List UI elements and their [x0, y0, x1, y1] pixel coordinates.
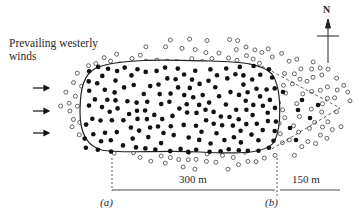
point-label-b: (b)	[265, 196, 278, 209]
wind-label-line1: Prevailing westerly	[9, 37, 98, 50]
arrow-right-icon	[33, 86, 49, 91]
wind-arrows	[33, 86, 49, 136]
north-arrow-icon	[317, 19, 339, 63]
wind-label-line2: winds	[9, 50, 98, 63]
arrow-right-icon	[33, 109, 49, 114]
wind-label: Prevailing westerly winds	[9, 37, 98, 63]
scale-label-150m: 150 m	[292, 173, 320, 186]
point-label-a: (a)	[100, 196, 113, 209]
north-label: N	[323, 3, 330, 16]
scale-label-300m: 300 m	[179, 173, 207, 186]
arrow-right-icon	[33, 131, 49, 136]
